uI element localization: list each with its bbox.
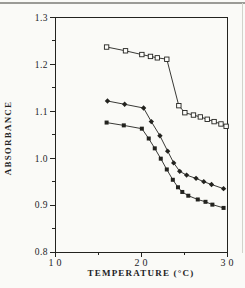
filled-square-marker [176, 185, 180, 189]
open-square-marker [148, 54, 152, 58]
y-tick-label: 0.8 [35, 247, 48, 257]
filled-diamond-marker [177, 169, 182, 174]
y-tick-label: 1.0 [35, 154, 48, 164]
scanned-figure-page: 0.80.91.01.11.21.3102030 TEMPERATURE (°C… [0, 0, 245, 288]
x-axis-title: TEMPERATURE (°C) [88, 268, 195, 278]
open-square-marker [155, 56, 159, 60]
filled-square-marker [165, 167, 169, 171]
filled-diamond-marker [157, 133, 162, 138]
open-square-marker [224, 124, 228, 128]
filled-diamond-marker [105, 98, 110, 103]
filled-square-marker [171, 178, 175, 182]
open-square-marker [104, 45, 108, 49]
filled-diamond-marker [149, 119, 154, 124]
filled-square-marker [159, 157, 163, 161]
y-axis-title: ABSORBANCE [3, 101, 13, 176]
filled-square-marker [140, 127, 144, 131]
filled-square-marker [210, 203, 214, 207]
series-open-square [104, 45, 228, 129]
x-tick-label: 10 [49, 257, 65, 268]
y-tick-label: 1.3 [35, 13, 48, 23]
filled-diamond-marker [193, 176, 198, 181]
filled-square-marker [196, 197, 200, 201]
filled-diamond-marker [141, 105, 146, 110]
series-line [107, 123, 224, 208]
y-tick-label: 1.2 [35, 60, 48, 70]
filled-diamond-marker [184, 172, 189, 177]
open-square-marker [212, 119, 216, 123]
open-square-marker [205, 117, 209, 121]
series-filled-diamond [105, 98, 226, 191]
filled-diamond-marker [165, 148, 170, 153]
absorbance-temperature-chart: 0.80.91.01.11.21.3102030 TEMPERATURE (°C… [0, 0, 245, 288]
filled-square-marker [180, 190, 184, 194]
data-series [104, 45, 228, 210]
open-square-marker [140, 52, 144, 56]
x-tick-label: 30 [221, 257, 237, 268]
open-square-marker [198, 115, 202, 119]
open-square-marker [177, 103, 181, 107]
filled-diamond-marker [201, 179, 206, 184]
filled-square-marker [204, 200, 208, 204]
open-square-marker [219, 122, 223, 126]
filled-square-marker [153, 146, 157, 150]
filled-diamond-marker [122, 102, 127, 107]
series-filled-square [105, 121, 226, 210]
filled-square-marker [147, 137, 151, 141]
open-square-marker [183, 111, 187, 115]
filled-square-marker [222, 206, 226, 210]
series-line [108, 101, 224, 189]
filled-square-marker [122, 123, 126, 127]
filled-diamond-marker [221, 186, 226, 191]
open-square-marker [165, 57, 169, 61]
y-tick-label: 1.1 [35, 107, 48, 117]
filled-square-marker [105, 121, 109, 125]
x-tick-label: 20 [135, 257, 151, 268]
filled-square-marker [186, 194, 190, 198]
filled-diamond-marker [209, 182, 214, 187]
open-square-marker [191, 113, 195, 117]
open-square-marker [123, 49, 127, 53]
y-tick-label: 0.9 [35, 200, 48, 210]
axis-tick-labels: 0.80.91.01.11.21.3102030 [35, 13, 237, 268]
